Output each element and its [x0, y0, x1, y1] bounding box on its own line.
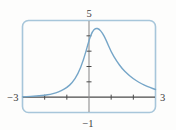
xmin-label: −3: [7, 92, 18, 103]
ymin-label: −1: [82, 118, 93, 129]
function-graph-figure: 5 −3 3 −1: [0, 0, 176, 130]
ymax-label: 5: [86, 8, 91, 19]
xmax-label: 3: [160, 92, 165, 103]
graph-svg: 5 −3 3 −1: [0, 0, 176, 130]
